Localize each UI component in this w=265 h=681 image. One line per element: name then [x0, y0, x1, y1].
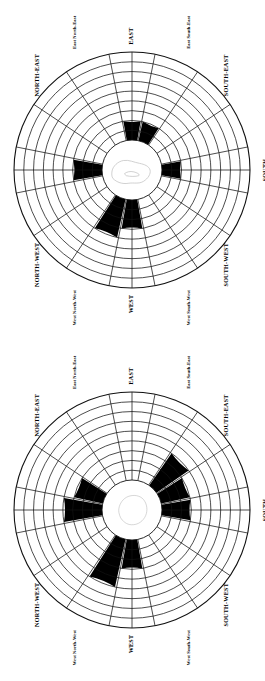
grid-spoke-3 [109, 394, 126, 480]
grid-spoke-8 [161, 516, 247, 533]
grid-spoke-5 [149, 72, 198, 145]
direction-label-E: EAST [128, 368, 134, 385]
direction-label-ENE: East North-East [72, 15, 77, 49]
direction-label-ENE: East North-East [72, 355, 77, 389]
grid-spoke-15 [16, 516, 102, 533]
grid-spoke-3 [109, 54, 126, 140]
grid-spoke-8 [161, 176, 247, 193]
grid-spoke-1 [34, 444, 107, 493]
direction-label-WNW: West North-West [72, 630, 77, 666]
direction-label-ESE: East South-East [186, 355, 191, 388]
grid-spoke-9 [157, 187, 230, 236]
grid-spoke-10 [149, 535, 198, 608]
grid-spoke-2 [66, 412, 115, 485]
direction-label-W: WEST [128, 635, 134, 654]
wind-rose-figure-page: NORTHNorth North-EastNORTH-EASTEast Nort… [0, 0, 265, 681]
direction-label-ESE: East South-East [186, 15, 191, 48]
direction-label-WSW: West South-West [186, 630, 191, 665]
direction-label-SW: SOUTH-WEST [223, 243, 229, 286]
direction-label-WSW: West South-West [186, 290, 191, 325]
wind-rose-top: NORTHNorth North-EastNORTH-EASTEast Nort… [0, 0, 265, 340]
grid-spoke-11 [138, 199, 155, 285]
direction-label-WNW: West North-West [72, 290, 77, 326]
wind-rose-bottom: NORTHNorth North-EastNORTH-EASTEast Nort… [0, 340, 265, 680]
grid-spoke-11 [138, 539, 155, 625]
direction-label-NW: NORTH-WEST [34, 583, 40, 627]
grid-spoke-10 [149, 195, 198, 268]
direction-label-W: WEST [128, 295, 134, 314]
direction-label-NE: NORTH-EAST [34, 54, 40, 97]
grid-spoke-4 [138, 394, 155, 480]
grid-spoke-9 [157, 527, 230, 576]
direction-label-NE: NORTH-EAST [34, 394, 40, 437]
direction-label-E: EAST [128, 28, 134, 45]
direction-label-SE: SOUTH-EAST [223, 394, 229, 436]
direction-label-SE: SOUTH-EAST [223, 54, 229, 96]
grid-spoke-1 [34, 104, 107, 153]
direction-label-S: SOUTH [262, 499, 265, 522]
rose-1-canvas: NORTHNorth North-EastNORTH-EASTEast Nort… [0, 0, 265, 340]
direction-label-S: SOUTH [262, 159, 265, 182]
direction-label-NW: NORTH-WEST [34, 243, 40, 287]
grid-spoke-7 [161, 147, 247, 164]
grid-spoke-2 [66, 72, 115, 145]
grid-spoke-0 [16, 147, 102, 164]
direction-label-SW: SOUTH-WEST [223, 583, 229, 626]
grid-spoke-6 [157, 104, 230, 153]
grid-spoke-15 [16, 176, 102, 193]
center-map-silhouette [119, 495, 147, 524]
rose-2-canvas: NORTHNorth North-EastNORTH-EASTEast Nort… [0, 340, 265, 680]
